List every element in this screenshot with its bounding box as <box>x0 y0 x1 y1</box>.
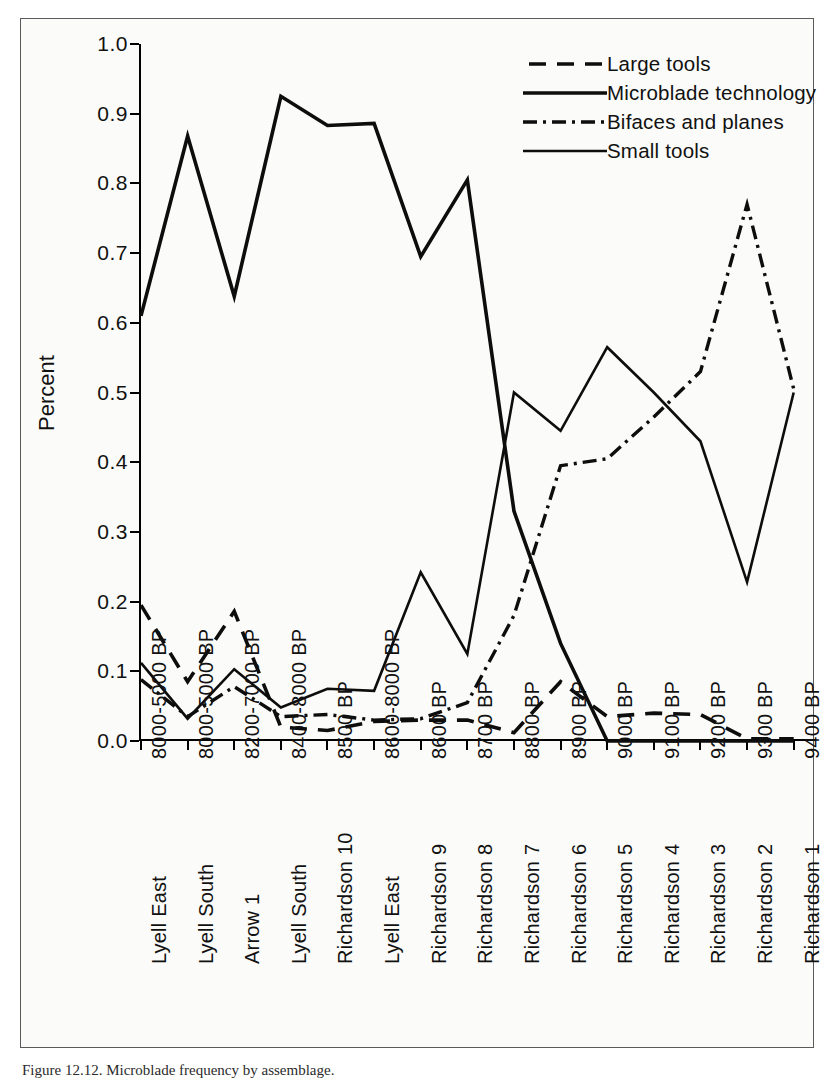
x-tick <box>280 741 282 750</box>
y-tick-label: 1.0 <box>97 32 128 56</box>
y-tick-label: 0.9 <box>97 102 128 126</box>
x-axis-site-label: Richardson 7 <box>521 844 544 964</box>
y-tick-label: 0.2 <box>97 590 128 614</box>
legend-row: Bifaces and planes <box>521 107 811 136</box>
y-tick-label: 0.3 <box>97 520 128 544</box>
y-tick <box>130 113 139 115</box>
x-axis-site-label: Lyell East <box>381 876 404 964</box>
x-axis-site-label: Richardson 2 <box>754 844 777 964</box>
x-axis-site-label: Richardson 10 <box>334 832 357 964</box>
x-axis-period-label: 9000 BP <box>614 681 637 759</box>
x-tick <box>233 741 235 750</box>
x-axis-site-label: Richardson 1 <box>801 844 824 964</box>
y-tick-label: 0.1 <box>97 659 128 683</box>
x-axis-period-label: 9200 BP <box>707 681 730 759</box>
x-axis-site-label: Richardson 9 <box>428 844 451 964</box>
x-tick <box>560 741 562 750</box>
figure-frame: Percent 0.00.10.20.30.40.50.60.70.80.91.… <box>20 18 814 1048</box>
legend-row: Microblade technology <box>521 78 811 107</box>
series-line-small-tools <box>141 347 794 719</box>
legend-row: Small tools <box>521 136 811 165</box>
x-tick <box>420 741 422 750</box>
y-tick <box>130 670 139 672</box>
x-axis-period-label: 8400-8000 BP <box>288 629 311 759</box>
legend-row: Large tools <box>521 49 811 78</box>
x-tick <box>466 741 468 750</box>
x-axis-period-label: 8600 BP <box>428 681 451 759</box>
legend-label: Microblade technology <box>607 81 816 105</box>
x-tick <box>373 741 375 750</box>
y-tick <box>130 392 139 394</box>
legend-swatch-microblade <box>521 86 607 100</box>
y-tick-label: 0.0 <box>97 729 128 753</box>
x-axis-period-label: 8700 BP <box>474 681 497 759</box>
legend-label: Large tools <box>607 52 711 76</box>
legend-label: Small tools <box>607 139 709 163</box>
y-axis-title: Percent <box>34 355 60 431</box>
y-tick <box>130 43 139 45</box>
y-tick <box>130 322 139 324</box>
x-axis-period-label: 8000-5000 BP <box>148 629 171 759</box>
y-tick-label: 0.8 <box>97 171 128 195</box>
y-tick <box>130 182 139 184</box>
x-axis-site-label: Lyell South <box>288 864 311 964</box>
legend-swatch-small-tools <box>521 144 607 158</box>
legend-label: Bifaces and planes <box>607 110 784 134</box>
y-tick <box>130 601 139 603</box>
y-tick-label: 0.6 <box>97 311 128 335</box>
x-axis-period-label: 8900 BP <box>568 681 591 759</box>
x-axis-period-label: 8200-7000 BP <box>241 629 264 759</box>
y-tick-label: 0.4 <box>97 450 128 474</box>
x-axis-site-label: Arrow 1 <box>241 894 264 964</box>
x-axis-site-label: Richardson 6 <box>568 844 591 964</box>
x-tick <box>513 741 515 750</box>
x-axis-site-label: Lyell South <box>195 864 218 964</box>
legend-swatch-large-tools <box>521 57 607 71</box>
figure-caption: Figure 12.12. Microblade frequency by as… <box>22 1062 822 1078</box>
y-tick <box>130 461 139 463</box>
x-axis-period-label: 9300 BP <box>754 681 777 759</box>
x-axis-site-label: Richardson 8 <box>474 844 497 964</box>
x-axis-period-label: 8000-5000 BP <box>195 629 218 759</box>
x-axis-site-label: Richardson 3 <box>707 844 730 964</box>
x-tick <box>140 741 142 750</box>
legend-swatch-bifaces <box>521 115 607 129</box>
x-tick <box>326 741 328 750</box>
y-tick <box>130 252 139 254</box>
y-tick <box>130 740 139 742</box>
series-line-microblade-technology <box>141 96 794 741</box>
x-tick <box>187 741 189 750</box>
x-axis-period-label: 8800 BP <box>521 681 544 759</box>
y-tick-label: 0.5 <box>97 381 128 405</box>
x-axis-period-label: 9400 BP <box>801 681 824 759</box>
chart-legend: Large toolsMicroblade technologyBifaces … <box>521 49 811 165</box>
x-axis-site-label: Richardson 4 <box>661 844 684 964</box>
x-axis-site-label: Richardson 5 <box>614 844 637 964</box>
x-axis-period-label: 9100 BP <box>661 681 684 759</box>
x-axis-period-label: 8500 BP <box>334 681 357 759</box>
x-axis-period-label: 8600-8000 BP <box>381 629 404 759</box>
y-tick <box>130 531 139 533</box>
y-tick-label: 0.7 <box>97 241 128 265</box>
x-axis-site-label: Lyell East <box>148 876 171 964</box>
